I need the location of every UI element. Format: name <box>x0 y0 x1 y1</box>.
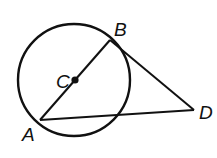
segment-bd <box>110 40 194 110</box>
label-b: B <box>114 19 127 40</box>
label-d: D <box>199 102 213 123</box>
geometry-diagram: A B C D <box>0 0 217 158</box>
segment-ad <box>40 110 194 120</box>
label-a: A <box>21 124 35 145</box>
label-c: C <box>56 71 70 92</box>
center-point-c <box>71 76 78 83</box>
